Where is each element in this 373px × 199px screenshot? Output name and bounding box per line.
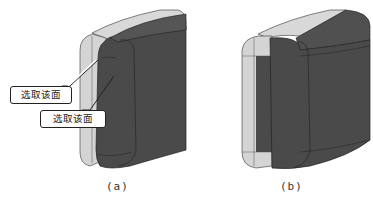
model-b [242, 10, 370, 169]
diagram: 选取该面 选取该面 (a) (b) [0, 0, 373, 199]
caption-b: (b) [280, 180, 303, 193]
caption-a: (a) [106, 180, 129, 193]
callout-select-face-2: 选取该面 [40, 110, 106, 128]
model-a [62, 10, 186, 168]
callout-select-face-1: 选取该面 [10, 86, 72, 104]
